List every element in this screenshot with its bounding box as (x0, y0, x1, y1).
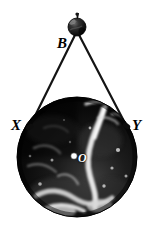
label-point-b: B (57, 36, 67, 51)
label-point-o: O (78, 152, 87, 164)
center-dot (71, 153, 77, 159)
geometry-figure (0, 0, 153, 237)
label-point-x: X (11, 118, 21, 133)
satellite-sphere (68, 12, 86, 36)
label-point-y: Y (132, 118, 141, 133)
figure-canvas: B X Y O (0, 0, 153, 237)
